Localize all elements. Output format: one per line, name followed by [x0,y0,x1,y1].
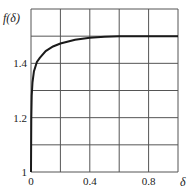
data-line [31,36,178,172]
chart: 00.40.811.21.4 f(δ) δ [0,0,191,192]
y-tick-label: 1.2 [13,112,27,124]
x-tick-label: 0 [28,175,34,187]
x-axis-label: δ [180,175,186,189]
y-tick-label: 1 [22,166,28,178]
x-tick-label: 0.4 [83,175,97,187]
y-axis-label: f(δ) [3,11,20,25]
y-tick-label: 1.4 [13,57,27,69]
grid [31,9,178,172]
x-tick-label: 0.8 [142,175,156,187]
tick-labels: 00.40.811.21.4 [13,57,156,187]
